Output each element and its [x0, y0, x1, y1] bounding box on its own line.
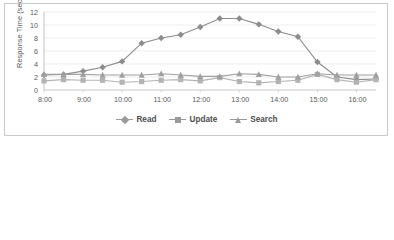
- chart-legend: Read Update Search: [0, 115, 394, 124]
- legend-label: Update: [189, 115, 217, 124]
- diamond-marker-icon: [116, 115, 133, 124]
- square-marker-icon: [169, 115, 186, 124]
- legend-item-search[interactable]: Search: [230, 115, 277, 124]
- legend-item-read[interactable]: Read: [116, 115, 156, 124]
- legend-label: Read: [136, 115, 156, 124]
- legend-label: Search: [250, 115, 277, 124]
- legend-item-update[interactable]: Update: [169, 115, 217, 124]
- triangle-marker-icon: [230, 115, 247, 124]
